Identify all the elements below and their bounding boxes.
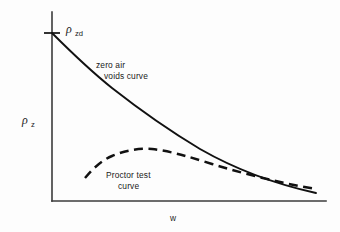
proctor-test-label-line2: curve bbox=[118, 181, 139, 191]
figure-background bbox=[0, 0, 340, 232]
compaction-curve-figure: ρ z ρ zd zero air voids curve Proctor te… bbox=[0, 0, 340, 232]
y-axis-label-subscript: z bbox=[31, 120, 35, 129]
x-axis-label: w bbox=[169, 213, 177, 223]
rho-zd-label-subscript: zd bbox=[75, 29, 83, 38]
zero-air-voids-label-line1: zero air bbox=[96, 60, 125, 70]
zero-air-voids-label-line2: voids curve bbox=[104, 71, 148, 81]
y-axis-label-symbol: ρ bbox=[21, 113, 28, 127]
rho-zd-label-symbol: ρ bbox=[65, 22, 72, 36]
proctor-test-label-line1: Proctor test bbox=[106, 170, 151, 180]
figure-canvas: ρ z ρ zd zero air voids curve Proctor te… bbox=[0, 0, 340, 232]
